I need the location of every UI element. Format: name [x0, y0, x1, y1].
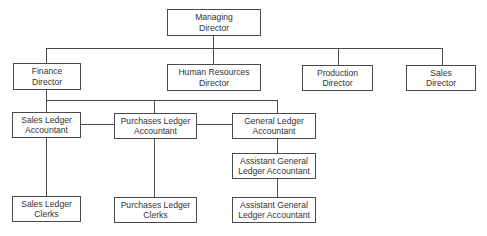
connector-md-down [213, 35, 214, 48]
node-finance-director: FinanceDirector [13, 63, 81, 90]
node-label-line2: Accountant [21, 125, 72, 136]
node-general-ledger-accountant: General LedgerAccountant [232, 113, 316, 139]
node-purchases-ledger-clerks: Purchases LedgerClerks [114, 197, 197, 223]
node-production-director: ProductionDirector [302, 65, 373, 91]
node-label-line1: Finance [32, 66, 63, 77]
node-assistant-gl-accountant-1: Assistant GeneralLedger Accountant [232, 153, 316, 179]
node-assistant-gl-accountant-2: Assistant GeneralLedger Accountant [232, 197, 316, 223]
node-hr-director: Human ResourcesDirector [167, 64, 261, 91]
node-sales-ledger-clerks: Sales LedgerClerks [12, 196, 81, 222]
node-label-line2: Director [195, 23, 233, 34]
node-label-line2: Director [32, 77, 63, 88]
connector-sales-clerks [46, 137, 47, 196]
connector-to-finance [46, 48, 47, 63]
node-label-line1: Purchases Ledger [121, 116, 191, 127]
connector-assistant1-assistant2 [277, 179, 278, 197]
connector-to-production [338, 48, 339, 65]
connector-purchases-general [196, 124, 232, 125]
node-managing-director: ManagingDirector [167, 9, 261, 36]
node-label-line2: Director [317, 78, 358, 89]
node-label-line1: Sales Ledger [21, 199, 72, 210]
node-label-line2: Ledger Accountant [238, 166, 310, 177]
node-label-line2: Clerks [121, 210, 191, 221]
node-label-line2: Director [178, 78, 249, 89]
connector-to-hr [213, 48, 214, 64]
node-label-line1: General Ledger [244, 116, 304, 127]
node-label-line2: Accountant [121, 126, 191, 137]
node-label-line1: Human Resources [178, 67, 249, 78]
node-label-line1: Purchases Ledger [121, 200, 191, 211]
node-label-line1: Assistant General [238, 200, 310, 211]
connector-general-assistant1 [277, 139, 278, 153]
connector-to-sales-director [442, 48, 443, 65]
node-label-line1: Sales Ledger [21, 115, 72, 126]
node-label-line2: Director [426, 78, 456, 89]
connector-purchases-clerks [154, 138, 155, 197]
connector-to-general-acc [277, 100, 278, 113]
node-label-line1: Managing [195, 12, 233, 23]
node-purchases-ledger-accountant: Purchases LedgerAccountant [114, 113, 197, 139]
node-label-line1: Assistant General [238, 156, 310, 167]
node-label-line2: Accountant [244, 126, 304, 137]
node-label-line1: Sales [426, 68, 456, 79]
connector-sales-purchases [80, 124, 114, 125]
connector-directors-horizontal [46, 48, 443, 49]
connector-to-purchases-acc [154, 100, 155, 113]
node-label-line2: Ledger Accountant [238, 210, 310, 221]
connector-finance-horizontal [46, 100, 278, 101]
node-label-line2: Clerks [21, 209, 72, 220]
node-sales-ledger-accountant: Sales LedgerAccountant [12, 112, 81, 138]
node-sales-director: SalesDirector [406, 65, 476, 91]
node-label-line1: Production [317, 68, 358, 79]
